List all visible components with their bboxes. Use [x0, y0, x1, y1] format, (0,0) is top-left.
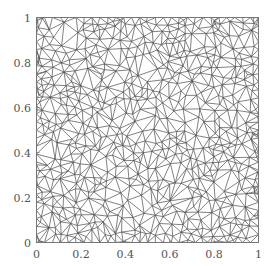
mesh-plot: 00.20.40.60.81 00.20.40.60.81: [0, 0, 270, 266]
x-tick-label: 0.8: [205, 248, 223, 261]
y-tick-label: 0.4: [14, 147, 32, 160]
x-tick-label: 0.4: [117, 248, 135, 261]
y-tick-label: 0.2: [14, 192, 32, 205]
x-tick-label: 0.2: [72, 248, 90, 261]
y-tick-label: 0.6: [14, 102, 32, 115]
x-tick-label: 1: [255, 248, 262, 261]
y-tick-label: 0: [24, 237, 31, 250]
triangle-mesh: [37, 18, 259, 243]
y-axis: 00.20.40.60.81: [14, 12, 40, 250]
x-tick-label: 0: [33, 248, 40, 261]
x-tick-label: 0.6: [161, 248, 179, 261]
mesh-edges: [37, 18, 259, 243]
y-tick-label: 1: [24, 12, 31, 25]
y-tick-label: 0.8: [14, 57, 32, 70]
